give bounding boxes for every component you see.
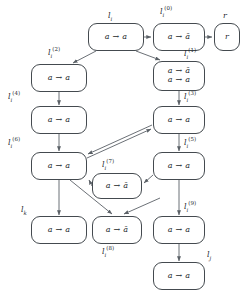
node-rule-text: a → a (168, 272, 190, 281)
label-subscript: i (51, 53, 53, 59)
label-superscript: (6) (12, 136, 20, 142)
label-subscript: i (11, 97, 13, 103)
edge-li-li2 (73, 51, 96, 63)
label-li5: li(5) (184, 138, 196, 147)
label-superscript: (9) (188, 200, 196, 206)
node-rule-text: a → a (168, 226, 190, 235)
node-li8: a → ā (92, 216, 142, 244)
node-li: a → a (88, 23, 144, 51)
label-superscript: (7) (106, 158, 114, 164)
label-superscript: (3) (188, 90, 196, 96)
node-rule-text: a → ā (106, 226, 128, 235)
label-subscript: k (24, 210, 27, 216)
node-lj: a → a (153, 262, 205, 290)
label-subscript: i (187, 207, 189, 213)
node-rule-text: a → a (48, 226, 70, 235)
label-subscript: i (111, 16, 113, 22)
edge-li6-li3 (87, 129, 151, 158)
label-li1: li(1) (184, 49, 196, 58)
edge-li5-li7 (144, 175, 153, 183)
label-superscript: (2) (52, 46, 60, 52)
node-rule-text: a → a (48, 116, 70, 125)
node-rule-text: a → a (48, 74, 70, 83)
label-li6: li(6) (8, 138, 20, 147)
node-li5: a → a (153, 152, 205, 180)
node-li7: a → ā (92, 173, 142, 199)
label-lk: lk (21, 205, 27, 214)
edge-li-li1 (136, 51, 160, 60)
label-li8: li(8) (102, 247, 114, 256)
node-li4: a → a (31, 106, 87, 134)
label-superscript: (5) (188, 136, 196, 142)
node-rule-text: a → a (168, 162, 190, 171)
node-li3: a → a (153, 106, 205, 134)
label-li3: li(3) (184, 92, 196, 101)
label-lj: lj (207, 250, 211, 259)
label-superscript: (8) (106, 245, 114, 251)
label-subscript: i (105, 165, 107, 171)
label-superscript: (1) (188, 47, 196, 53)
label-li7: li(7) (102, 160, 114, 169)
node-rule-text: a → ā (168, 33, 190, 42)
node-li2: a → a (31, 64, 87, 92)
label-subscript: i (187, 97, 189, 103)
node-lk: a → a (31, 216, 87, 244)
node-li0: a → ā (153, 23, 205, 51)
node-rule-text: a → a (48, 162, 70, 171)
label-li: li (108, 11, 112, 20)
edge-li3-li6 (88, 125, 152, 154)
node-rule-text: a → a (168, 116, 190, 125)
label-li2: li(2) (48, 48, 60, 57)
node-rule-text: a → a (168, 76, 190, 85)
label-subscript: i (163, 12, 165, 18)
label-subscript: i (187, 143, 189, 149)
node-li1: a → āa → a (153, 61, 205, 91)
label-main: r (223, 11, 227, 20)
node-rule-text: a → ā (106, 182, 128, 191)
label-subscript: j (210, 255, 212, 261)
node-rule-text: r (225, 33, 229, 42)
label-li0: li(0) (160, 7, 172, 16)
label-superscript: (0) (164, 5, 172, 11)
label-subscript: i (11, 143, 13, 149)
node-rule-text: a → a (105, 33, 127, 42)
label-li4: li(4) (8, 92, 20, 101)
label-r: r (223, 11, 227, 20)
label-li9: li(9) (184, 202, 196, 211)
edge-li9-li8 (124, 198, 160, 214)
node-li6: a → a (31, 152, 87, 180)
label-subscript: i (105, 252, 107, 258)
node-r: r (214, 23, 240, 51)
node-li9: a → a (153, 216, 205, 244)
label-subscript: i (187, 54, 189, 60)
label-superscript: (4) (12, 90, 20, 96)
flow-diagram: a → aa → āra → aa → āa → aa → aa → aa → … (0, 0, 249, 304)
